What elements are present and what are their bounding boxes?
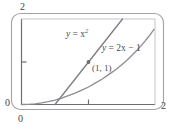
tangent-equation-label: y = 2x − 1 [102,44,141,54]
parabola-equation-label: y = x2 [66,28,88,40]
x-axis-min-label: 0 [18,114,23,124]
tangency-point-marker [87,60,91,64]
tangency-point-label: (1, 1) [92,64,112,73]
tangent-label-body: = 2x − 1 [106,43,140,53]
x-axis-max-label: 2 [161,101,166,111]
parabola-label-exponent: 2 [85,27,88,34]
figure-container: 2 0 0 2 y = x2 y = 2x − 1 (1, 1) [0,0,172,127]
graph-canvas [0,0,172,127]
y-axis-min-label: 0 [5,98,10,108]
parabola-curve [22,29,155,104]
y-axis-max-label: 2 [20,2,25,12]
parabola-label-body: = x [70,29,85,39]
